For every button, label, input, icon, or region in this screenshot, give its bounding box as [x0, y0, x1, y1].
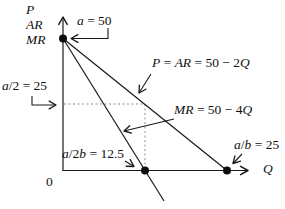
economics-revenue-diagram: P AR MR a = 50 a/2 = 25 P = AR = 50 − 2Q…	[0, 0, 285, 209]
a2b-pointer-arrow	[125, 161, 134, 167]
demand-equation-label: P = AR = 50 − 2Q	[152, 55, 250, 70]
mr-quantity-intercept-dot	[141, 167, 149, 175]
mr-q-intercept-label: a/2b = 12.5	[62, 146, 124, 161]
y-axis-title-mr: MR	[26, 32, 46, 47]
mr-eq-pointer-arrow	[124, 119, 174, 131]
y-axis-title-p: P	[26, 2, 46, 17]
a50-pointer-arrow	[71, 28, 108, 39]
y-axis-title: P AR MR	[26, 2, 46, 47]
demand-quantity-intercept-dot	[223, 167, 231, 175]
y-axis-title-ar: AR	[26, 17, 46, 32]
mr-equation-label: MR = 50 − 4Q	[174, 102, 252, 117]
a-intercept-label: a = 50	[77, 13, 112, 28]
x-axis-title: Q	[263, 161, 273, 176]
ab-pointer-arrow	[233, 154, 242, 164]
demand-eq-pointer-arrow	[139, 74, 151, 93]
origin-label: 0	[46, 174, 53, 189]
half-price-label: a/2 = 25	[2, 78, 47, 93]
a2-pointer-arrow	[32, 96, 56, 105]
demand-q-intercept-label: a/b = 25	[234, 137, 279, 152]
mr-curve	[63, 39, 164, 202]
price-intercept-dot	[59, 35, 67, 43]
